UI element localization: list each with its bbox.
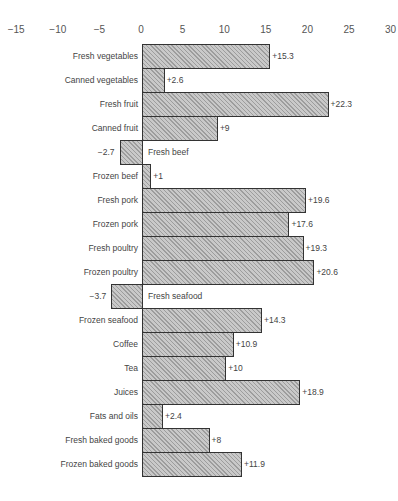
- bar: [142, 428, 210, 453]
- bar: [142, 92, 329, 117]
- value-label: +18.9: [302, 387, 324, 397]
- category-label: Frozen seafood: [79, 315, 138, 325]
- value-label: −3.7: [89, 291, 106, 301]
- bar: [142, 404, 163, 429]
- bar: [142, 380, 300, 405]
- value-label: +8: [212, 435, 222, 445]
- bar: [120, 140, 143, 165]
- category-label: Coffee: [113, 339, 138, 349]
- bar: [142, 116, 218, 141]
- bar: [111, 284, 143, 309]
- category-label: Frozen beef: [93, 171, 138, 181]
- category-label: Frozen poultry: [84, 267, 138, 277]
- value-label: +1: [153, 171, 163, 181]
- category-label: Fresh beef: [148, 147, 189, 157]
- category-label: Fresh fruit: [100, 99, 138, 109]
- bar: [142, 308, 262, 333]
- bar: [142, 212, 289, 237]
- value-label: +10.9: [236, 339, 258, 349]
- x-axis-tick-label: 20: [302, 24, 313, 35]
- value-label: +22.3: [331, 99, 353, 109]
- bar: [142, 236, 304, 261]
- category-label: Juices: [114, 387, 138, 397]
- x-axis-tick-label: 25: [343, 24, 354, 35]
- bar: [142, 452, 242, 477]
- value-label: +2.4: [165, 411, 182, 421]
- x-axis-tick-label: −10: [49, 24, 66, 35]
- x-axis-tick-label: 10: [219, 24, 230, 35]
- bar: [142, 356, 226, 381]
- value-label: +10: [228, 363, 242, 373]
- x-axis-tick-label: 30: [385, 24, 396, 35]
- category-label: Tea: [124, 363, 138, 373]
- x-axis-tick-label: −15: [8, 24, 25, 35]
- category-label: Fresh baked goods: [65, 435, 138, 445]
- category-label: Fresh seafood: [148, 291, 202, 301]
- value-label: +9: [220, 123, 230, 133]
- bar: [142, 44, 270, 69]
- value-label: −2.7: [98, 147, 115, 157]
- x-axis-tick-label: 15: [260, 24, 271, 35]
- category-label: Frozen pork: [93, 219, 138, 229]
- category-label: Fresh pork: [97, 195, 138, 205]
- value-label: +17.6: [291, 219, 313, 229]
- value-label: +15.3: [272, 51, 294, 61]
- value-label: +2.6: [167, 75, 184, 85]
- value-label: +19.3: [306, 243, 328, 253]
- value-label: +14.3: [264, 315, 286, 325]
- category-label: Fresh vegetables: [73, 51, 138, 61]
- category-label: Frozen baked goods: [61, 459, 139, 469]
- bar: [142, 188, 306, 213]
- x-axis-tick-label: −5: [94, 24, 105, 35]
- bar: [142, 332, 234, 357]
- category-label: Fats and oils: [90, 411, 138, 421]
- bar: [142, 68, 165, 93]
- x-axis-tick-label: 5: [180, 24, 186, 35]
- value-label: +11.9: [244, 459, 265, 469]
- category-label: Fresh poultry: [88, 243, 138, 253]
- value-label: +20.6: [316, 267, 338, 277]
- value-label: +19.6: [308, 195, 330, 205]
- category-label: Canned vegetables: [65, 75, 138, 85]
- x-axis-tick-label: 0: [138, 24, 144, 35]
- bar: [142, 260, 314, 285]
- category-label: Canned fruit: [92, 123, 138, 133]
- bar: [142, 164, 151, 189]
